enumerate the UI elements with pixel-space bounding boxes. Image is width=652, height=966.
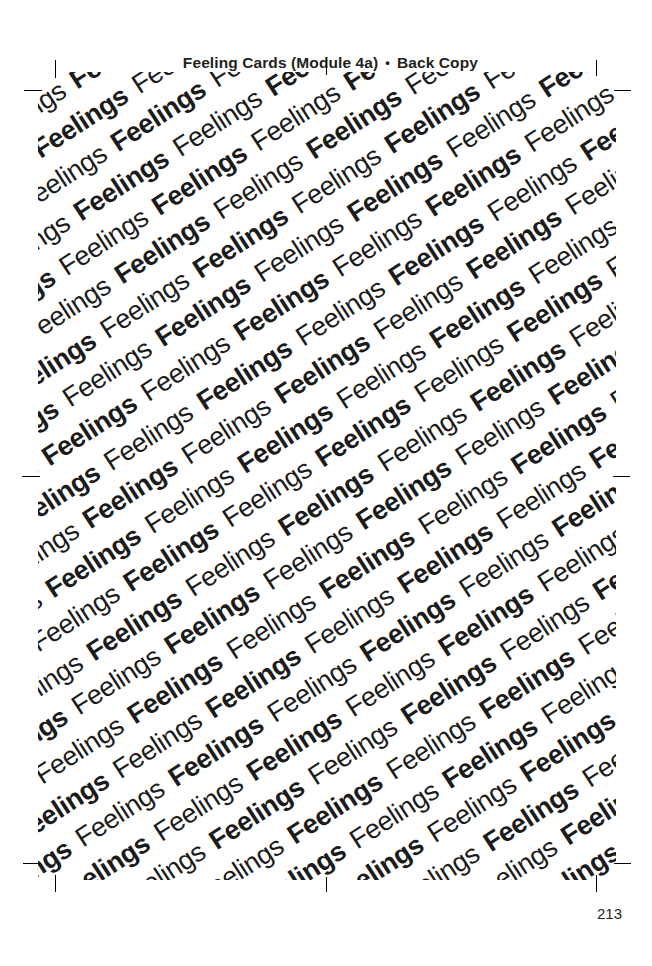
feelings-pattern-plane: FeelingsFeelingsFeelingsFeelingsFeelings… — [38, 72, 616, 880]
running-head-bullet-separator: • — [378, 55, 397, 70]
page-number: 213 — [597, 905, 622, 922]
running-head-title: Feeling Cards (Module 4a) — [183, 54, 378, 71]
crop-mark-left-center-horizontal — [22, 476, 40, 477]
crop-mark-top-center-vertical — [326, 60, 327, 75]
crop-mark-top-right-horizontal — [614, 90, 631, 91]
crop-mark-right-center-horizontal — [613, 476, 630, 477]
crop-mark-top-left-vertical — [55, 60, 56, 78]
crop-mark-bottom-right-vertical — [596, 875, 597, 892]
crop-mark-top-right-vertical — [596, 60, 597, 76]
running-head-subtitle: Back Copy — [397, 54, 478, 71]
feelings-card-back-artwork: FeelingsFeelingsFeelingsFeelingsFeelings… — [38, 72, 616, 880]
crop-mark-bottom-left-vertical — [55, 875, 56, 892]
crop-mark-bottom-center-vertical — [326, 877, 327, 892]
crop-mark-bottom-left-horizontal — [23, 863, 41, 864]
crop-mark-bottom-right-horizontal — [614, 863, 631, 864]
crop-mark-top-left-horizontal — [24, 90, 42, 91]
